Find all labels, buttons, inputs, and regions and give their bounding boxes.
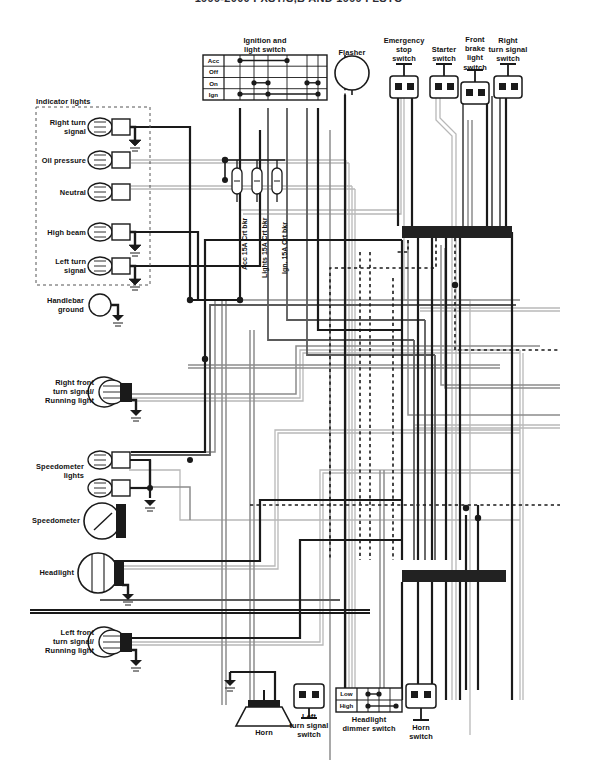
label-horn: Horn xyxy=(238,728,290,737)
label-speedometer-lights: Speedometer lights xyxy=(10,462,84,480)
label-indicator-high-beam: High beam xyxy=(22,228,86,237)
speedometer-gauge xyxy=(84,503,126,539)
label-indicator-right-turn: Right turn signal xyxy=(34,118,86,136)
label-handlebar-ground: Handlebar ground xyxy=(18,296,84,314)
switch-right-turn-signal[interactable] xyxy=(494,64,522,98)
indicator-lamp-group xyxy=(88,118,141,290)
label-right-turn-signal-switch: Right turn signal switch xyxy=(478,36,538,64)
indicator-lamp-neutral xyxy=(88,183,130,201)
ignition-row-acc: Acc xyxy=(204,57,223,65)
label-speedometer: Speedometer xyxy=(10,516,80,525)
label-fuse-ign: Ign. 15A Crt bkr xyxy=(281,222,288,274)
label-indicator-oil-pressure: Oil pressure xyxy=(18,156,86,165)
switch-starter[interactable] xyxy=(430,64,458,98)
label-fuse-lights: Lights 15A Crt bkr xyxy=(261,218,268,278)
lamp-right-front-turn-running xyxy=(88,377,142,421)
label-fuse-acc: Acc 15A Crt bkr xyxy=(241,218,248,270)
label-flasher: Flasher xyxy=(325,48,379,57)
label-headlight-dimmer-switch: Headlight dimmer switch xyxy=(334,715,404,733)
speedometer-lights-pair xyxy=(88,451,193,511)
indicator-lamp-high-beam xyxy=(88,223,141,256)
lamp-left-front-turn-running xyxy=(88,627,142,671)
dimmer-row-high: High xyxy=(337,702,356,710)
label-right-front-turn-signal: Right front turn signal/ Running light xyxy=(8,378,94,406)
label-indicator-neutral: Neutral xyxy=(30,188,86,197)
horn-component xyxy=(224,672,292,726)
ignition-row-on: On xyxy=(204,80,223,88)
flasher-component xyxy=(335,56,369,95)
label-ignition-switch: Ignition and light switch xyxy=(215,36,315,54)
label-horn-switch: Horn switch xyxy=(398,723,444,741)
switch-front-brake-light[interactable] xyxy=(461,70,489,104)
wire-layer-dark-gray xyxy=(100,96,516,600)
fuse-group xyxy=(222,160,285,202)
ignition-row-off: Off xyxy=(204,68,223,76)
label-left-front-turn-signal: Left front turn signal/ Running light xyxy=(8,628,94,656)
ignition-row-ign: Ign xyxy=(204,91,223,99)
label-indicator-lights: Indicator lights xyxy=(36,97,126,106)
fuse-ign xyxy=(272,160,282,202)
label-left-turn-signal-switch: Left turn signal switch xyxy=(284,712,334,740)
switch-emergency-stop[interactable] xyxy=(390,64,418,98)
label-indicator-left-turn: Left turn signal xyxy=(34,257,86,275)
indicator-lamp-oil-pressure xyxy=(88,151,130,169)
handlebar-ground-component xyxy=(89,294,124,326)
dimmer-row-low: Low xyxy=(337,690,356,698)
label-headlight: Headlight xyxy=(14,568,74,577)
junction-dots xyxy=(187,157,481,521)
indicator-lamp-right-turn xyxy=(88,118,141,151)
switch-horn[interactable] xyxy=(406,684,436,720)
wiring-diagram-page: 1999-2000 FXST/S,B AND 1999 FLSTC xyxy=(0,0,597,776)
